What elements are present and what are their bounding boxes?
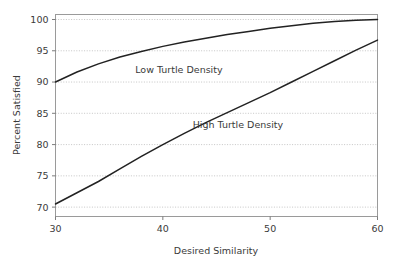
x-tick-label-30: 30 — [49, 223, 61, 234]
y-tick-label-80: 80 — [36, 139, 48, 150]
y-axis-title: Percent Satisfied — [11, 75, 22, 155]
x-tick-label-40: 40 — [157, 223, 169, 234]
chart-figure: 707580859095100 30405060 Low Turtle Dens… — [0, 0, 398, 270]
chart-canvas: 707580859095100 30405060 Low Turtle Dens… — [0, 0, 398, 270]
y-tick-label-75: 75 — [36, 170, 48, 181]
y-tick-label-85: 85 — [36, 108, 48, 119]
x-axis-title: Desired Similarity — [174, 245, 259, 256]
y-tick-label-95: 95 — [36, 45, 48, 56]
x-tick-label-50: 50 — [264, 223, 276, 234]
x-tick-label-60: 60 — [371, 223, 383, 234]
y-tick-label-100: 100 — [30, 14, 48, 25]
y-tick-label-90: 90 — [36, 76, 48, 87]
series-annotation-high-turtle-density: High Turtle Density — [193, 119, 284, 130]
y-tick-label-70: 70 — [36, 202, 48, 213]
series-annotation-low-turtle-density: Low Turtle Density — [135, 64, 223, 75]
